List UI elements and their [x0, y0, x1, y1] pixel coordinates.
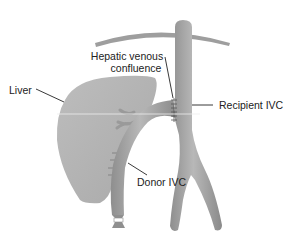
anatomy-illustration [0, 0, 295, 244]
recipient-ivc [170, 20, 222, 231]
hepatic-leader-line [165, 57, 173, 98]
donor-ivc-ligature [114, 218, 123, 222]
diaphragm-arc [95, 33, 230, 48]
liver-label: Liver [9, 84, 32, 96]
recipient-ivc-label: Recipient IVC [219, 99, 283, 111]
hepatic-venous-confluence-label: Hepatic venous confluence [89, 50, 165, 74]
donor-ivc-leader-line [128, 163, 147, 175]
donor-ivc-label: Donor IVC [137, 176, 186, 188]
hepatic-label-line2: confluence [89, 62, 165, 74]
liver-leader-line [36, 89, 64, 102]
diagram-canvas: Hepatic venous confluence Liver Recipien… [0, 0, 295, 244]
hepatic-label-line1: Hepatic venous [89, 50, 165, 62]
